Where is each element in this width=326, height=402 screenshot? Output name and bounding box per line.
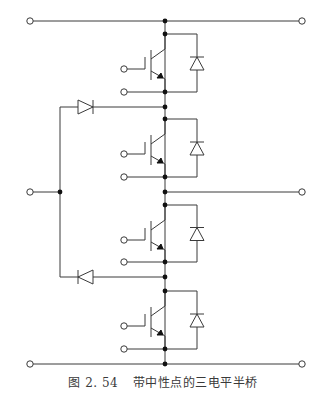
positive-terminal-right[interactable] <box>299 18 305 24</box>
igbt-4-emitter-terminal[interactable] <box>121 346 127 352</box>
figure-number: 图 2. 54 <box>68 376 118 390</box>
igbt-3-icon <box>121 203 204 266</box>
figure-title: 带中性点的三电平半桥 <box>133 376 258 390</box>
lower-clamp-diode-icon <box>78 270 93 284</box>
igbt-3-gate-terminal[interactable] <box>121 237 127 243</box>
igbt-4-icon <box>121 289 204 353</box>
upper-clamp-diode-icon <box>78 100 93 114</box>
igbt-2-gate-terminal[interactable] <box>121 151 127 157</box>
negative-terminal[interactable] <box>27 361 33 367</box>
figure-caption: 图 2. 54 带中性点的三电平半桥 <box>0 373 326 390</box>
neutral-terminal[interactable] <box>27 189 33 195</box>
positive-terminal[interactable] <box>27 18 33 24</box>
igbt-1-icon <box>121 32 204 96</box>
igbt-2-emitter-terminal[interactable] <box>121 174 127 180</box>
igbt-2-icon <box>121 117 204 181</box>
igbt-1-emitter-terminal[interactable] <box>121 89 127 95</box>
three-level-half-bridge-schematic <box>0 0 326 402</box>
negative-terminal-right[interactable] <box>299 361 305 367</box>
igbt-1-gate-terminal[interactable] <box>121 66 127 72</box>
igbt-4-gate-terminal[interactable] <box>121 323 127 329</box>
igbt-3-emitter-terminal[interactable] <box>121 259 127 265</box>
output-terminal[interactable] <box>299 189 305 195</box>
